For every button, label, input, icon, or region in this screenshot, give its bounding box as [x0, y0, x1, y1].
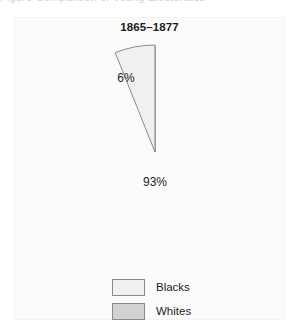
- chart-legend: Blacks Whites: [112, 276, 232, 324]
- legend-label-blacks: Blacks: [156, 281, 190, 293]
- figure-container: Figure Comparison of Voting Electorates …: [0, 0, 299, 331]
- chart-panel: [14, 17, 285, 320]
- pie-value-blacks: 6%: [106, 71, 146, 85]
- legend-swatch-blacks: [112, 279, 145, 296]
- figure-heading-cropped: Figure Comparison of Voting Electorates: [0, 0, 299, 5]
- legend-item-blacks: Blacks: [112, 276, 232, 298]
- chart-period-label: 1865–1877: [0, 21, 299, 33]
- legend-item-whites: Whites: [112, 300, 232, 322]
- legend-label-whites: Whites: [156, 305, 191, 317]
- pie-value-whites: 93%: [132, 175, 178, 189]
- legend-swatch-whites: [112, 303, 145, 320]
